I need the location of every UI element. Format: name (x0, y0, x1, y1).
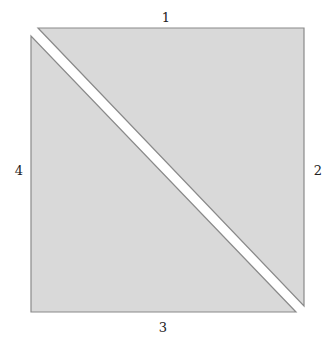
edge-label-left: 4 (15, 163, 23, 178)
diagram-canvas: 1 2 3 4 (0, 0, 334, 337)
edge-label-top: 1 (162, 10, 170, 25)
edge-label-right: 2 (314, 163, 322, 178)
edge-label-bottom: 3 (159, 320, 167, 335)
